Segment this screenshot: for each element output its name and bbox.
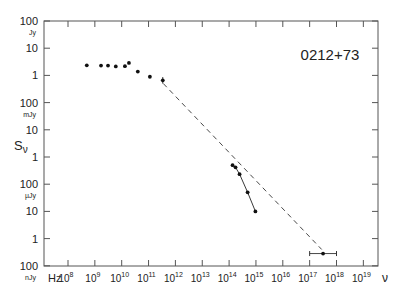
- y-tick-label: 10: [26, 205, 38, 217]
- y-unit-label: Jy: [29, 29, 37, 37]
- y-unit-label: mJy: [23, 111, 36, 119]
- data-point: [106, 64, 110, 68]
- x-tick-label: 109: [85, 271, 100, 284]
- x-tick-label: 1019: [352, 271, 371, 284]
- data-point: [114, 65, 118, 69]
- x-axis-label: ν: [382, 271, 388, 285]
- x-tick-label: 1014: [218, 271, 237, 284]
- x-tick-label: 1015: [244, 271, 263, 284]
- x-tick-label: 1013: [191, 271, 210, 284]
- data-point: [246, 190, 250, 194]
- y-tick-label: 1: [32, 151, 38, 163]
- y-tick-label: 1: [32, 69, 38, 81]
- x-tick-label: 1011: [137, 271, 155, 284]
- data-point: [161, 78, 165, 82]
- data-point: [321, 252, 325, 256]
- x-tick-label: 1010: [110, 271, 129, 284]
- y-unit-label: nJy: [25, 274, 36, 282]
- y-tick-label: 100: [20, 97, 38, 109]
- y-axis-label: Sν: [14, 138, 28, 155]
- y-tick-label: 10: [26, 42, 38, 54]
- x-tick-label: 1016: [271, 271, 290, 284]
- y-tick-label: 100: [20, 178, 38, 190]
- connecting-line: [233, 165, 256, 211]
- data-point: [254, 210, 258, 214]
- x-unit-label: Hz: [48, 272, 61, 284]
- data-point: [136, 70, 140, 74]
- data-point: [127, 61, 131, 65]
- x-tick-label: 1012: [164, 271, 183, 284]
- data-point: [99, 64, 103, 68]
- data-point: [234, 165, 238, 169]
- x-tick-label: 1018: [325, 271, 344, 284]
- sed-chart: 100Jy101100mJy101100µJy101100nJy 1081091…: [0, 0, 406, 299]
- plot-series: [85, 61, 337, 256]
- x-tick-label: 1017: [298, 271, 317, 284]
- data-point: [85, 63, 89, 67]
- y-tick-label: 100: [20, 260, 38, 272]
- data-point: [148, 75, 152, 79]
- source-name-label: 0212+73: [301, 46, 360, 63]
- y-tick-label: 10: [26, 124, 38, 136]
- y-unit-label: µJy: [25, 192, 37, 200]
- data-point: [123, 64, 127, 68]
- data-point: [238, 172, 242, 176]
- y-tick-label: 100: [20, 15, 38, 27]
- y-tick-label: 1: [32, 233, 38, 245]
- power-law-fit-line: [163, 84, 321, 250]
